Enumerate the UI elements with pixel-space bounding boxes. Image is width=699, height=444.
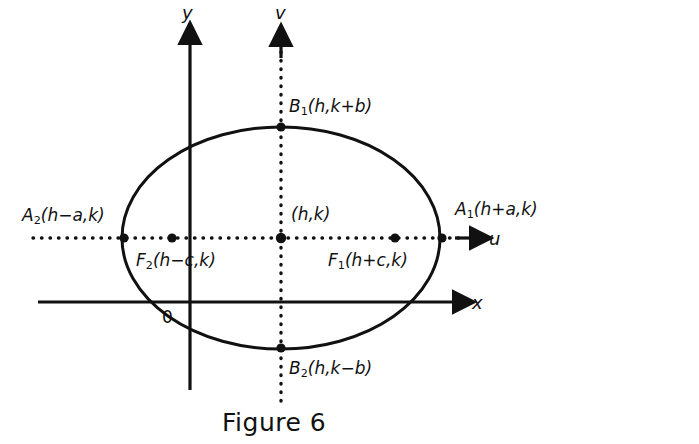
label-covertex-top-coords: (h,k+b) xyxy=(308,96,372,116)
label-focus-left-sub: 2 xyxy=(146,259,153,272)
point-vertex-right xyxy=(437,233,446,242)
point-center xyxy=(276,233,286,243)
x-axis-label: x xyxy=(472,294,483,312)
point-focus-left xyxy=(167,233,176,242)
label-vertex-left-sub: 2 xyxy=(34,214,41,227)
u-axis-label: u xyxy=(489,230,500,248)
label-covertex-top-name: B xyxy=(289,96,301,116)
label-vertex-left-coords: (h−a,k) xyxy=(41,205,105,225)
label-vertex-right-sub: 1 xyxy=(467,208,474,221)
label-covertex-top: B1(h,k+b) xyxy=(289,98,372,117)
label-focus-left-name: F xyxy=(136,250,146,270)
label-covertex-bottom-sub: 2 xyxy=(301,367,308,380)
label-vertex-right-coords: (h+a,k) xyxy=(474,199,538,219)
label-covertex-bottom-coords: (h,k−b) xyxy=(308,358,372,378)
label-center: (h,k) xyxy=(291,206,330,223)
point-covertex-bottom xyxy=(276,343,285,352)
figure-canvas: y v x u 0 B1(h,k+b) A2(h−a,k) A1(h+a,k) … xyxy=(0,0,699,444)
point-focus-right xyxy=(390,233,399,242)
v-axis-label: v xyxy=(275,4,286,22)
point-vertex-left xyxy=(119,233,128,242)
label-focus-right: F1(h+c,k) xyxy=(328,252,408,271)
y-axis-label: y xyxy=(182,4,193,22)
label-focus-right-sub: 1 xyxy=(338,259,345,272)
label-vertex-left-name: A xyxy=(22,205,34,225)
point-covertex-top xyxy=(276,122,285,131)
label-vertex-right: A1(h+a,k) xyxy=(455,201,538,220)
label-covertex-top-sub: 1 xyxy=(301,105,308,118)
label-covertex-bottom-name: B xyxy=(289,358,301,378)
origin-label: 0 xyxy=(162,309,173,326)
label-covertex-bottom: B2(h,k−b) xyxy=(289,360,372,379)
figure-caption: Figure 6 xyxy=(222,410,326,435)
label-focus-right-coords: (h+c,k) xyxy=(345,250,408,270)
label-focus-left-coords: (h−c,k) xyxy=(153,250,216,270)
label-vertex-left: A2(h−a,k) xyxy=(22,207,105,226)
label-vertex-right-name: A xyxy=(455,199,467,219)
label-focus-left: F2(h−c,k) xyxy=(136,252,216,271)
label-focus-right-name: F xyxy=(328,250,338,270)
